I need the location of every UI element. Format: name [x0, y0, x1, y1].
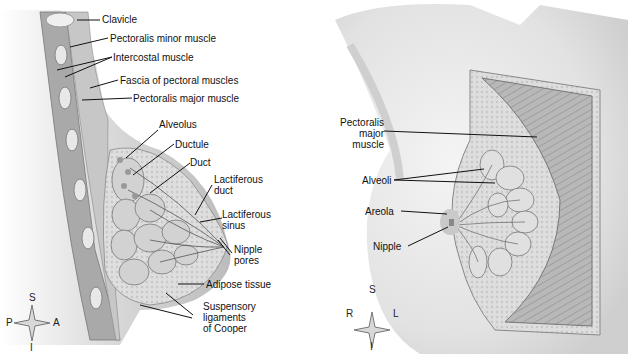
label-clavicle: Clavicle	[102, 14, 137, 25]
compass-left-s: S	[29, 292, 36, 303]
label-nipple: Nipple	[373, 241, 401, 252]
label-duct: Duct	[190, 157, 211, 168]
label-suspensory: Suspensoryligamentsof Cooper	[203, 301, 256, 334]
label-lactiferous-sinus: Lactiferoussinus	[222, 209, 271, 231]
compass-right-i: I	[370, 341, 373, 352]
label-alveoli: Alveoli	[362, 175, 391, 186]
label-pectoralis-major-right: Pectoralismajormuscle	[330, 117, 384, 150]
label-ductule: Ductule	[175, 139, 209, 150]
compass-right-l: L	[393, 308, 399, 319]
label-lactiferous-duct: Lactiferousduct	[214, 174, 263, 196]
compass-left-a: A	[53, 317, 60, 328]
label-pectoralis-minor: Pectoralis minor muscle	[110, 33, 216, 44]
label-intercostal: Intercostal muscle	[113, 52, 194, 63]
label-fascia: Fascia of pectoral muscles	[120, 75, 238, 86]
label-nipple-pores: Nipplepores	[234, 244, 262, 266]
label-alveolus: Alveolus	[159, 119, 197, 130]
compass-left-i: I	[30, 342, 33, 353]
compass-left-p: P	[6, 317, 13, 328]
label-pectoralis-major: Pectoralis major muscle	[133, 93, 239, 104]
compass-right-s: S	[369, 284, 376, 295]
anatomy-illustration	[0, 0, 628, 354]
label-areola: Areola	[365, 206, 394, 217]
compass-right-r: R	[346, 308, 353, 319]
label-adipose: Adipose tissue	[206, 279, 271, 290]
